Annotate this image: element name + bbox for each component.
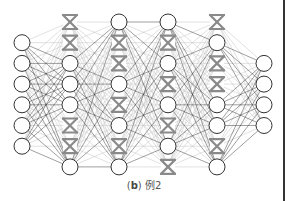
dropped-neuron-x-icon	[63, 15, 77, 29]
edges-group	[22, 22, 264, 167]
neuron-node	[209, 159, 225, 175]
neuron-node	[256, 76, 272, 92]
dropped-neuron-x-icon	[210, 77, 224, 91]
active-connection	[217, 63, 264, 166]
active-connection	[217, 105, 264, 167]
caption-label: b	[131, 180, 138, 191]
neuron-node	[111, 159, 127, 175]
neuron-node	[256, 118, 272, 134]
dropped-neuron-x-icon	[161, 36, 175, 50]
dropped-neuron-x-icon	[210, 56, 224, 70]
active-connection	[22, 105, 70, 167]
neural-network-diagram	[0, 0, 288, 201]
neuron-node	[14, 97, 30, 113]
dropped-neuron-x-icon	[112, 139, 126, 153]
neuron-node	[256, 55, 272, 71]
neuron-node	[160, 138, 176, 154]
active-connection	[217, 43, 264, 105]
neuron-node	[160, 55, 176, 71]
neuron-node	[111, 14, 127, 30]
dropped-neuron-x-icon	[112, 98, 126, 112]
neuron-node	[160, 97, 176, 113]
dropped-neuron-x-icon	[161, 160, 175, 174]
neuron-node	[62, 55, 78, 71]
active-connection	[217, 126, 264, 167]
dropped-neuron-x-icon	[161, 77, 175, 91]
neuron-node	[62, 159, 78, 175]
neuron-node	[111, 118, 127, 134]
dropped-neuron-x-icon	[161, 119, 175, 133]
figure-caption: (b) 例2	[0, 177, 288, 192]
neuron-node	[111, 76, 127, 92]
neuron-node	[209, 35, 225, 51]
neuron-node	[14, 138, 30, 154]
neuron-node	[256, 97, 272, 113]
dropped-neuron-x-icon	[63, 36, 77, 50]
caption-close-paren: )	[138, 180, 142, 191]
neuron-node	[160, 14, 176, 30]
neuron-node	[14, 118, 30, 134]
dropped-neuron-x-icon	[210, 139, 224, 153]
dropped-neuron-x-icon	[112, 36, 126, 50]
neuron-node	[209, 118, 225, 134]
neuron-node	[62, 97, 78, 113]
right-border	[283, 0, 285, 201]
dropped-neuron-x-icon	[112, 56, 126, 70]
neuron-node	[14, 76, 30, 92]
dropped-neuron-x-icon	[210, 15, 224, 29]
caption-text: 例2	[145, 180, 161, 191]
dropped-neuron-x-icon	[63, 139, 77, 153]
neuron-node	[14, 55, 30, 71]
dropped-neuron-x-icon	[63, 119, 77, 133]
neuron-node	[14, 35, 30, 51]
neuron-node	[62, 76, 78, 92]
neuron-node	[209, 97, 225, 113]
